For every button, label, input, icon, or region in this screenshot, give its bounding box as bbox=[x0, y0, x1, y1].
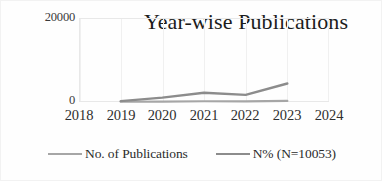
chart-card: Year-wise Publications 20000 0 2018 2019… bbox=[0, 0, 382, 181]
x-axis-tick: 2021 bbox=[182, 107, 226, 124]
series-line-n-percent bbox=[121, 84, 288, 102]
legend-label: N% (N=10053) bbox=[253, 146, 336, 162]
x-axis-tick: 2023 bbox=[265, 107, 309, 124]
legend-label: No. of Publications bbox=[85, 146, 188, 162]
chart-legend: No. of Publications N% (N=10053) bbox=[1, 143, 382, 165]
legend-swatch-icon bbox=[48, 153, 82, 155]
legend-item-n-percent[interactable]: N% (N=10053) bbox=[216, 146, 336, 162]
x-axis-labels: 2018 2019 2020 2021 2022 2023 2024 bbox=[49, 107, 369, 129]
legend-swatch-icon bbox=[216, 153, 250, 155]
x-axis-tick: 2019 bbox=[99, 107, 143, 124]
x-axis-tick: 2018 bbox=[57, 107, 101, 124]
legend-item-no-of-publications[interactable]: No. of Publications bbox=[48, 146, 188, 162]
x-axis-tick: 2020 bbox=[140, 107, 184, 124]
x-axis-tick: 2024 bbox=[307, 107, 351, 124]
x-axis-tick: 2022 bbox=[223, 107, 267, 124]
series-line-no-of-publications bbox=[121, 101, 288, 102]
